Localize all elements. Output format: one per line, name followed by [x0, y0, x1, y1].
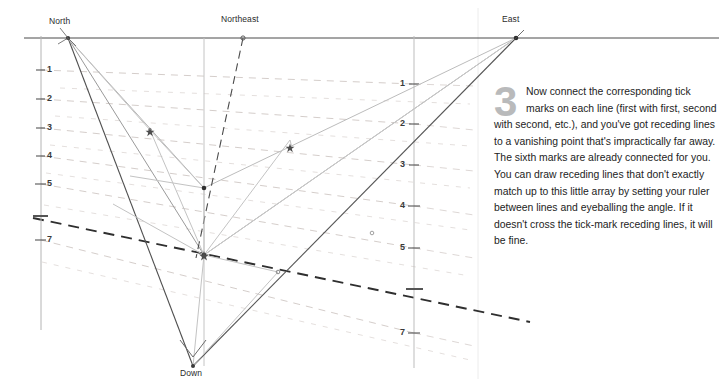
node-center-upper — [202, 186, 207, 191]
northeast-dashed-diagonal — [196, 38, 243, 258]
figure-page: North Northeast East Down 1 2 3 4 5 7 1 … — [0, 0, 719, 387]
vertex-label-northeast: Northeast — [221, 14, 259, 24]
node-right-far — [370, 231, 374, 235]
left-tick-label-5: 5 — [47, 178, 52, 188]
left-tick-label-1: 1 — [47, 64, 52, 74]
north-vertex-fan — [58, 28, 76, 46]
right-tick-label-5: 5 — [400, 242, 405, 252]
vertex-label-down: Down — [180, 368, 202, 378]
vertex-label-north: North — [49, 16, 70, 26]
edge-north-to-down — [68, 38, 193, 366]
left-tick-label-3: 3 — [47, 122, 52, 132]
left-tick-label-7: 7 — [47, 234, 52, 244]
right-tick-label-7: 7 — [400, 327, 405, 337]
caption-numeral-spacer — [494, 84, 526, 114]
receding-dashed-lines-left — [41, 70, 414, 333]
vertex-label-east: East — [502, 14, 519, 24]
step-caption-text: Now connect the corresponding tick marks… — [494, 84, 717, 250]
receding-dashed-lines-secondary — [42, 88, 470, 360]
right-tick-label-1: 1 — [400, 78, 405, 88]
right-tick-label-3: 3 — [400, 159, 405, 169]
node-markers — [66, 36, 518, 368]
left-tick-label-2: 2 — [47, 93, 52, 103]
sixth-marks-connector — [33, 218, 530, 322]
receding-dashed-lines-right-extension — [414, 84, 474, 346]
left-tick-label-4: 4 — [47, 150, 52, 160]
edge-north-to-center — [68, 38, 204, 255]
pencil-diagonal-to-east — [204, 38, 516, 255]
edge-east-to-down — [193, 38, 516, 366]
right-tick-label-4: 4 — [400, 200, 405, 210]
step-caption-block: 3 Now connect the corresponding tick mar… — [494, 80, 719, 310]
right-tick-label-2: 2 — [400, 118, 405, 128]
caption-body: Now connect the corresponding tick marks… — [494, 86, 717, 246]
pencil-construction-lines — [68, 38, 292, 366]
